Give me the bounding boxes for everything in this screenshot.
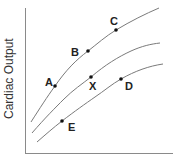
- point-a-dot: [53, 84, 57, 88]
- point-e-label: E: [68, 121, 75, 133]
- point-d-dot: [119, 77, 123, 81]
- point-d-label: D: [125, 80, 133, 92]
- frank-starling-chart: A B C X D E Cardiac Output: [0, 0, 174, 160]
- point-e-dot: [60, 119, 64, 123]
- point-b-dot: [86, 49, 90, 53]
- point-c-label: C: [110, 15, 118, 27]
- point-x-label: X: [89, 80, 97, 92]
- upper-curve: [31, 8, 159, 122]
- point-a-label: A: [45, 76, 53, 88]
- lower-curve: [37, 64, 163, 142]
- point-x-dot: [89, 75, 93, 79]
- chart-canvas: A B C X D E: [0, 0, 174, 160]
- point-b-label: B: [71, 46, 79, 58]
- y-axis-label: Cardiac Output: [1, 39, 17, 119]
- point-c-dot: [114, 28, 118, 32]
